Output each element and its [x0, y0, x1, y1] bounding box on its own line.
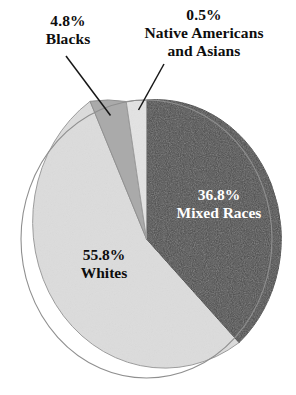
callout-blacks-percent: 4.8%: [16, 12, 120, 30]
slice-label-whites-percent: 55.8%: [52, 246, 156, 264]
pie-chart: 4.8% Blacks 0.5% Native Americans and As…: [0, 0, 296, 395]
callout-natives-percent: 0.5%: [116, 6, 292, 24]
callout-blacks-name: Blacks: [16, 30, 120, 48]
callout-label-native-americans-and-asians: 0.5% Native Americans and Asians: [116, 6, 292, 60]
callout-label-blacks: 4.8% Blacks: [16, 12, 120, 48]
slice-label-mixed-percent: 36.8%: [163, 186, 275, 204]
slice-label-mixed-races: 36.8% Mixed Races: [163, 186, 275, 223]
callout-natives-name-line2: and Asians: [116, 42, 292, 60]
slice-label-whites-name: Whites: [52, 264, 156, 282]
callout-natives-name-line1: Native Americans: [116, 24, 292, 42]
slice-label-mixed-name: Mixed Races: [163, 204, 275, 222]
slice-label-whites: 55.8% Whites: [52, 246, 156, 283]
